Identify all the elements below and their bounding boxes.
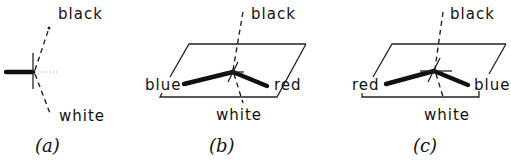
- label-black: black: [251, 5, 296, 23]
- black-axis-dashed: [233, 12, 243, 70]
- panel-c: black red blue white (c): [352, 5, 510, 156]
- figure-diagram: black white (a) black blue red white (b)…: [0, 0, 511, 166]
- black-axis-tip: [48, 27, 51, 30]
- caption-a: (a): [35, 135, 60, 156]
- label-red: red: [274, 76, 302, 94]
- red-bond-line: [233, 72, 267, 86]
- red-bond-line: [386, 71, 434, 84]
- panel-a: black white (a): [6, 5, 105, 156]
- white-axis-dashed: [436, 74, 444, 100]
- label-blue: blue: [145, 76, 181, 94]
- black-axis-dashed: [35, 28, 49, 70]
- plane-right-edge: [489, 44, 506, 74]
- panel-b: black blue red white (b): [145, 5, 306, 156]
- blue-bond-line: [184, 72, 233, 84]
- white-axis-dashed: [35, 74, 51, 116]
- label-red: red: [352, 76, 380, 94]
- white-axis-dashed: [234, 74, 243, 103]
- label-blue: blue: [474, 76, 510, 94]
- label-black: black: [58, 5, 103, 23]
- label-white: white: [216, 106, 262, 124]
- label-black: black: [450, 5, 495, 23]
- label-white: white: [59, 107, 105, 125]
- caption-c: (c): [413, 135, 437, 156]
- caption-b: (b): [209, 135, 235, 156]
- label-white: white: [424, 106, 470, 124]
